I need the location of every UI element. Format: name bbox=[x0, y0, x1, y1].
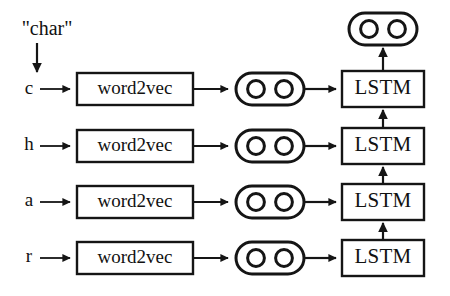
char-input-1: h bbox=[24, 133, 34, 154]
lstm-label-0: LSTM bbox=[355, 75, 412, 99]
lstm-label-1: LSTM bbox=[355, 132, 412, 156]
char-input-3: r bbox=[26, 245, 33, 266]
vector-unit-0-1 bbox=[276, 81, 293, 98]
vector-unit-1-0 bbox=[248, 138, 265, 155]
vector-unit-3-1 bbox=[276, 250, 293, 267]
vector-unit-1-1 bbox=[276, 138, 293, 155]
output-vector bbox=[349, 13, 417, 45]
output-unit-0 bbox=[361, 21, 378, 38]
vector-unit-2-1 bbox=[276, 194, 293, 211]
embedding-label-0: word2vec bbox=[98, 77, 173, 98]
embedding-label-3: word2vec bbox=[98, 246, 173, 267]
embedding-label-2: word2vec bbox=[98, 190, 173, 211]
vector-unit-3-0 bbox=[248, 250, 265, 267]
embedding-vector-3 bbox=[236, 242, 304, 274]
embedding-vector-0 bbox=[236, 73, 304, 105]
diagram-canvas: "char" c word2vec LSTM h word2vec bbox=[0, 0, 450, 296]
vector-unit-2-0 bbox=[248, 194, 265, 211]
lstm-label-3: LSTM bbox=[355, 244, 412, 268]
lstm-label-2: LSTM bbox=[355, 188, 412, 212]
embedding-vector-2 bbox=[236, 186, 304, 218]
char-input-2: a bbox=[25, 189, 34, 210]
vector-unit-0-0 bbox=[248, 81, 265, 98]
embedding-vector-1 bbox=[236, 130, 304, 162]
output-unit-1 bbox=[389, 21, 406, 38]
char-input-0: c bbox=[25, 77, 33, 98]
diagram-svg: "char" c word2vec LSTM h word2vec bbox=[0, 0, 450, 296]
source-label: "char" bbox=[22, 17, 73, 39]
embedding-label-1: word2vec bbox=[98, 134, 173, 155]
